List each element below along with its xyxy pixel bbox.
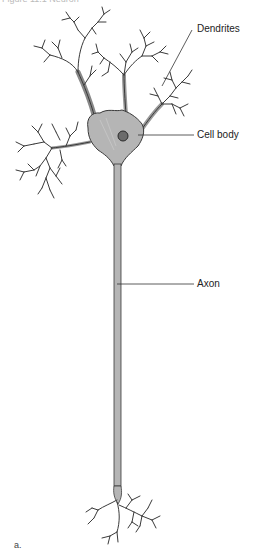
axon	[114, 164, 122, 504]
neuron-diagram	[0, 0, 256, 553]
label-axon: Axon	[197, 278, 220, 290]
nucleus	[118, 131, 128, 141]
cell-body	[88, 110, 144, 166]
label-cell-body: Cell body	[197, 129, 239, 141]
dendrites	[16, 7, 192, 198]
panel-caption: a.	[14, 540, 22, 550]
label-dendrites: Dendrites	[197, 23, 240, 35]
axon-terminals	[86, 494, 160, 544]
